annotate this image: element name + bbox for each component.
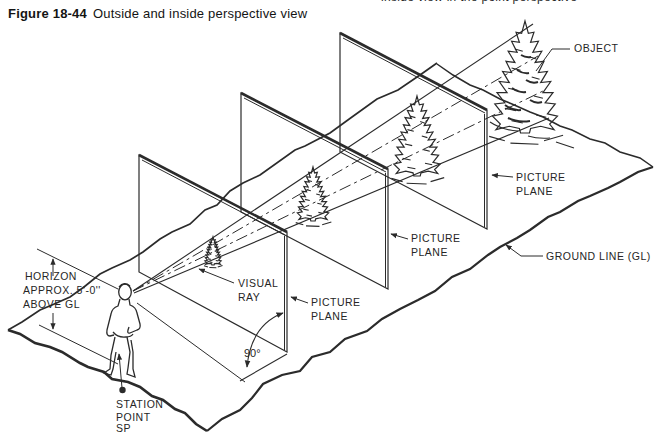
picture-plane-near [139, 155, 287, 352]
station-point-dot [119, 387, 125, 393]
ground-line-label: GROUND LINE (GL) [546, 250, 651, 262]
picture-plane-far-leader [492, 175, 513, 177]
visual-ray-leader [199, 269, 234, 283]
visual-ray-label-line1: VISUAL [238, 277, 278, 289]
figure-page: inside view in the point perspective Fig… [0, 0, 655, 433]
observer-body [107, 299, 140, 337]
horizon-label-line2: APPROX. 5'-0'' [23, 284, 101, 296]
perspective-diagram: OBJECT PICTURE PLANE PICTURE PLANE PICTU… [0, 0, 655, 433]
diagram-labels: OBJECT PICTURE PLANE PICTURE PLANE PICTU… [23, 42, 651, 433]
leader-lines [199, 49, 570, 303]
picture-plane-middle [241, 93, 388, 289]
ground-line-leader [506, 245, 543, 256]
station-point-label-line3: SP [116, 422, 131, 433]
object-tree [489, 21, 574, 148]
eye-to-ground-line [137, 303, 245, 382]
horizon-label-line3: ABOVE GL [23, 298, 80, 310]
tree-image-far-plane [391, 96, 444, 184]
horizon-extension-line [37, 249, 118, 289]
ground-edge-lower-left [8, 330, 207, 431]
picture-plane-middle-leader [391, 234, 408, 239]
picture-plane-near-label-line1: PICTURE [311, 296, 361, 308]
picture-plane-near-label-line2: PLANE [311, 310, 348, 322]
ground-extension-line [39, 325, 118, 364]
picture-plane-far-label-line2: PLANE [516, 185, 553, 197]
station-point-arrow [119, 354, 122, 388]
observer-figure [104, 284, 140, 377]
visual-ray-top [133, 24, 533, 291]
observer-head [119, 284, 132, 300]
picture-plane-far-label-line1: PICTURE [516, 171, 566, 183]
object-label: OBJECT [574, 42, 619, 54]
visual-ray-label-line2: RAY [238, 291, 260, 303]
station-point-label-line1: STATION [116, 398, 163, 410]
visual-ray-centerline-upper [133, 56, 538, 291]
picture-plane-near-leader [291, 297, 308, 303]
picture-plane-middle-label-line2: PLANE [411, 246, 448, 258]
station-point [119, 354, 126, 393]
ground-edge-lower-right [207, 167, 653, 431]
horizon-label-line1: HORIZON [25, 270, 77, 282]
right-angle-label: 90° [244, 347, 261, 359]
picture-plane-middle-label-line1: PICTURE [411, 232, 461, 244]
